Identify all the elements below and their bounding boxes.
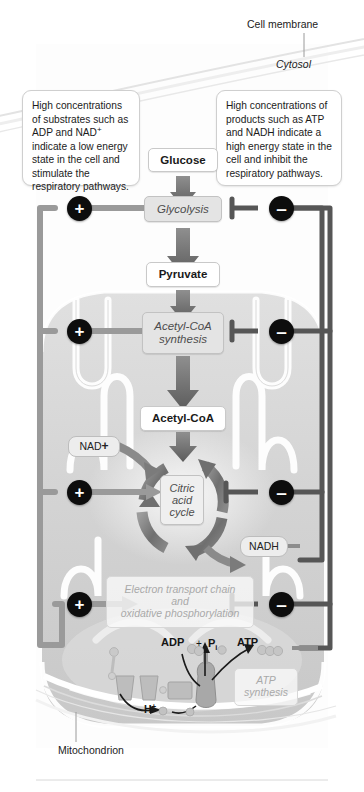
regulator-minus-glycolysis[interactable]: – (269, 196, 294, 221)
figure-canvas: Cell membrane Cytosol Mitochondrion High… (0, 0, 364, 792)
regulator-plus-electron-transport-chain[interactable]: + (67, 592, 92, 617)
mitochondrion-label: Mitochondrion (58, 744, 124, 756)
node-glucose: Glucose (148, 148, 218, 172)
acetyl-coa-synthesis-line2: synthesis (159, 333, 207, 346)
nad-plus-base: NAD (79, 441, 101, 453)
atp-synthesis-line2: synthesis (244, 687, 288, 699)
callout-right-line6: respiratory pathways. (226, 167, 333, 181)
node-acetyl-coa: Acetyl-CoA (140, 406, 226, 431)
proton-superscript: + (152, 702, 157, 711)
citric-acid-cycle-line2: acid (172, 494, 192, 506)
node-acetyl-coa-synthesis: Acetyl-CoA synthesis (142, 312, 224, 354)
etc-line3: oxidative phosphorylation (121, 608, 240, 620)
callout-right-line5: cell and inhibit the (226, 153, 333, 167)
citric-acid-cycle-line1: Citric (169, 482, 194, 494)
node-pyruvate: Pyruvate (146, 262, 220, 287)
callout-right-line3: and NADH indicate a (226, 126, 333, 140)
callout-left-line4: indicate a low energy (32, 140, 131, 154)
regulator-minus-citric-acid-cycle[interactable]: – (269, 480, 294, 505)
callout-left-line7: respiratory pathways. (32, 180, 131, 194)
callout-right-line1: High concentrations of (226, 99, 333, 113)
callout-left-line5: state in the cell and (32, 153, 131, 167)
pi-subscript: i (215, 643, 217, 652)
regulator-plus-citric-acid-cycle[interactable]: + (67, 480, 92, 505)
label-proton: H+ (144, 703, 156, 715)
stimulation-callout: High concentrations of substrates such a… (22, 90, 140, 186)
citric-acid-cycle-line3: cycle (169, 506, 194, 518)
cell-membrane-label: Cell membrane (247, 18, 318, 30)
node-glycolysis: Glycolysis (144, 196, 222, 222)
label-atp: ATP (237, 636, 258, 648)
node-electron-transport-chain: Electron transport chain and oxidative p… (106, 576, 254, 628)
regulator-minus-acetyl-coa-synthesis[interactable]: – (269, 319, 294, 344)
callout-left-line1: High concentrations (32, 99, 131, 113)
callout-right-line4: high energy state in the (226, 140, 333, 154)
node-citric-acid-cycle: Citric acid cycle (160, 475, 204, 525)
regulator-plus-glycolysis[interactable]: + (67, 196, 92, 221)
cytosol-label: Cytosol (276, 58, 311, 70)
node-nadh: NADH (240, 536, 288, 557)
label-plus-sign: + (196, 638, 202, 649)
node-nad-plus: NAD+ (68, 436, 120, 457)
acetyl-coa-synthesis-line1: Acetyl-CoA (154, 320, 212, 333)
proton-base: H (144, 703, 152, 715)
callout-left-superscript: + (97, 125, 102, 134)
callout-left-line6: stimulate the (32, 167, 131, 181)
callout-right-line2: products such as ATP (226, 113, 333, 127)
inhibition-callout: High concentrations of products such as … (216, 90, 342, 186)
node-atp-synthesis: ATP synthesis (234, 668, 298, 706)
callout-left-line2: of substrates such as (32, 113, 131, 127)
label-adp: ADP (161, 636, 184, 648)
label-inorganic-phosphate: Pi (208, 637, 217, 649)
regulator-plus-acetyl-coa-synthesis[interactable]: + (67, 319, 92, 344)
regulator-minus-electron-transport-chain[interactable]: – (269, 592, 294, 617)
nad-plus-superscript: + (102, 440, 109, 453)
callout-left-line3: ADP and NAD (32, 127, 97, 138)
